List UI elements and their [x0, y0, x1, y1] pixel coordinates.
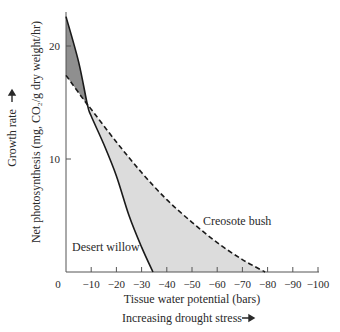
up-arrow-icon	[9, 90, 15, 102]
y-axis-subtitle-group: Growth rate	[5, 90, 19, 167]
y-tick-label: 10	[49, 153, 61, 165]
x-tick-label: −50	[183, 278, 201, 290]
x-tick-label: −90	[284, 278, 302, 290]
x-axis-subtitle-group: Increasing drought stress	[122, 311, 254, 325]
y-tick-label: 20	[49, 40, 61, 52]
x-tick-label: −80	[259, 278, 277, 290]
y-axis-subtitle: Growth rate	[5, 109, 19, 167]
x-tick-label: −60	[209, 278, 227, 290]
x-tick-label: −10	[83, 278, 101, 290]
x-tick-label: −70	[234, 278, 252, 290]
x-tick-label: −30	[133, 278, 151, 290]
x-tick-label: −100	[307, 278, 330, 290]
x-axis-subtitle: Increasing drought stress	[122, 311, 242, 325]
x-tick-label: 0	[55, 278, 61, 290]
x-tick-label: −20	[108, 278, 126, 290]
shaded-regions	[66, 17, 265, 272]
x-axis-title: Tissue water potential (bars)	[124, 292, 261, 306]
y-axis-title-group: Net photosynthesis (mg, CO₂/g dry weight…	[29, 21, 43, 243]
y-axis-title: Net photosynthesis (mg, CO₂/g dry weight…	[29, 21, 43, 243]
right-arrow-icon	[242, 315, 254, 321]
creosote-bush-label: Creosote bush	[203, 214, 271, 228]
chart: 0−10−20−30−40−50−60−70−80−90−100 1020 De…	[0, 0, 340, 332]
desert-willow-label: Desert willow	[72, 240, 140, 254]
x-tick-label: −40	[158, 278, 176, 290]
